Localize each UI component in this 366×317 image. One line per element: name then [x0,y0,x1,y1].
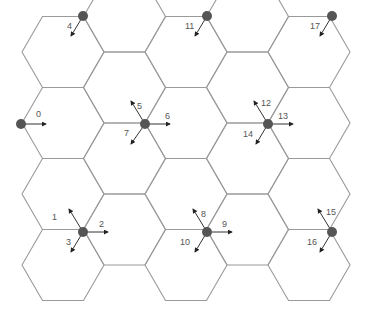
arrow-label-10: 10 [180,237,190,247]
hex-cell [207,194,289,265]
hex-cell [84,0,166,52]
arrow-label-1: 1 [52,212,57,222]
node-dot [263,119,273,129]
arrow-labels: 41117056712131412389101516 [36,21,336,247]
arrow-label-13: 13 [278,111,288,121]
arrow-label-2: 2 [99,219,104,229]
hex-cell [145,87,227,158]
arrow-label-6: 6 [165,111,170,121]
node-dot [78,227,88,237]
arrow-label-16: 16 [307,237,317,247]
arrow-label-12: 12 [261,98,271,108]
node-dot [16,119,26,129]
arrow-label-3: 3 [66,237,71,247]
node-dot [327,11,337,21]
arrow-label-15: 15 [326,207,336,217]
hex-cell [84,52,166,123]
hex-cell [22,87,104,158]
hex-cell [268,158,350,229]
arrow-label-17: 17 [310,21,320,31]
hex-cell [145,158,227,229]
arrow-label-8: 8 [201,209,206,219]
direction-arrows [21,16,332,252]
arrow-label-7: 7 [124,128,129,138]
arrow-label-5: 5 [137,101,142,111]
arrow-label-4: 4 [67,21,72,31]
hex-cell [268,16,350,87]
node-dot [327,227,337,237]
hex-cell [84,194,166,265]
hex-cell [22,229,104,300]
hex-cell [207,0,289,52]
arrow-label-14: 14 [243,129,253,139]
arrow-label-11: 11 [185,21,194,31]
arrow-label-0: 0 [36,109,41,119]
hex-cell [22,158,104,229]
node-dot [78,11,88,21]
node-dot [202,227,212,237]
arrow-label-9: 9 [222,219,227,229]
hex-cell [22,16,104,87]
node-dot [202,11,212,21]
hex-cells [22,0,350,301]
hex-cell [207,52,289,123]
node-dot [140,119,150,129]
hex-cell [268,87,350,158]
hexagon-grid-diagram: 41117056712131412389101516 [0,0,366,317]
